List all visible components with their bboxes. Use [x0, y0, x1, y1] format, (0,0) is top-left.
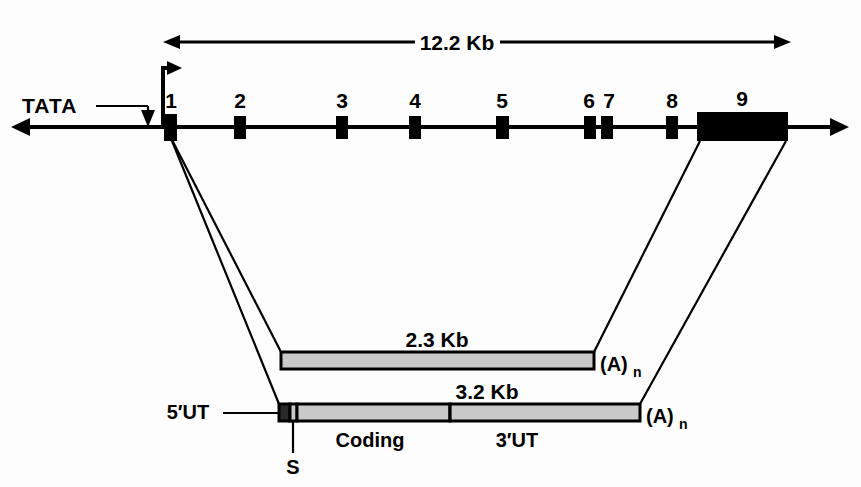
five-prime-ut-block: [279, 404, 290, 421]
connectors-short-transcript: [170, 136, 700, 352]
exon-label-7: 7: [603, 89, 615, 112]
signal-peptide-label: S: [286, 456, 299, 478]
exon-label-6: 6: [583, 89, 595, 112]
exon-box-9: [697, 112, 788, 141]
short-transcript-group: 2.3 Kb (A) n: [281, 328, 642, 380]
tata-annotation: TATA: [22, 94, 155, 127]
genomic-span-dimension: 12.2 Kb: [163, 31, 791, 54]
exon-label-8: 8: [666, 89, 678, 112]
span-arrowhead-left: [163, 35, 180, 49]
exon-label-2: 2: [234, 89, 246, 112]
connector-left-short: [170, 136, 281, 352]
connector-right-short: [594, 141, 700, 352]
span-arrowhead-right: [774, 35, 791, 49]
exon-label-group: 1 2 3 4 5 6 7 8 9: [165, 87, 748, 112]
tata-arrowhead: [141, 110, 155, 127]
coding-label: Coding: [336, 429, 405, 451]
connector-right-long: [640, 141, 786, 404]
gene-structure-figure: 12.2 Kb TATA: [0, 0, 861, 487]
short-transcript-bar: [281, 352, 594, 369]
exon-box-2: [234, 116, 246, 139]
exon-box-3: [336, 116, 348, 139]
exon-box-8: [666, 116, 678, 139]
exon-box-4: [409, 116, 421, 139]
exon-label-4: 4: [409, 89, 421, 112]
short-transcript-size-label: 2.3 Kb: [405, 328, 468, 351]
short-transcript-polya-label: (A): [600, 353, 628, 375]
figure-canvas: 12.2 Kb TATA: [0, 0, 861, 487]
long-transcript-group: 3.2 Kb (A) n: [279, 380, 688, 432]
five-prime-ut-label: 5′UT: [167, 401, 210, 423]
long-transcript-size-label: 3.2 Kb: [455, 380, 518, 403]
signal-peptide-annotation: S: [286, 421, 299, 478]
tss-arrowhead: [167, 61, 182, 75]
exon-label-1: 1: [165, 89, 177, 112]
three-prime-ut-block: [450, 404, 640, 421]
connector-left-long: [170, 136, 279, 404]
three-prime-ut-label: 3′UT: [496, 429, 539, 451]
long-transcript-polya-subscript: n: [679, 416, 688, 432]
tata-label: TATA: [22, 94, 77, 117]
short-transcript-polya-subscript: n: [633, 364, 642, 380]
dna-arrowhead-right: [830, 118, 849, 136]
five-prime-ut-annotation: 5′UT: [167, 401, 279, 423]
exon-label-5: 5: [496, 89, 508, 112]
long-transcript-polya-label: (A): [646, 405, 674, 427]
genomic-span-label: 12.2 Kb: [420, 31, 495, 54]
exon-label-9: 9: [736, 87, 748, 110]
exon-box-6: [584, 116, 596, 139]
dna-arrowhead-left: [11, 118, 30, 136]
coding-block: [297, 404, 450, 421]
exon-box-7: [601, 116, 613, 139]
exon-label-3: 3: [336, 89, 348, 112]
exon-box-5: [496, 116, 509, 139]
